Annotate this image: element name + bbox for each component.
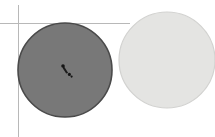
cursor-dot-icon	[61, 64, 65, 68]
scene-svg	[0, 0, 215, 137]
image-canvas	[0, 0, 215, 137]
light-disc	[119, 12, 215, 108]
cursor-dot-tertiary-icon	[71, 76, 73, 78]
cursor-dot-secondary-icon	[68, 73, 71, 76]
